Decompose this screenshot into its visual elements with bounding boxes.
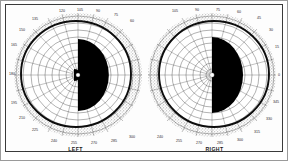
svg-text:270: 270 bbox=[196, 141, 202, 145]
svg-text:90: 90 bbox=[195, 8, 199, 12]
visual-field-plot-left: 120 105 90 75 60 135 150 165 180 195 210… bbox=[6, 5, 145, 152]
svg-text:345: 345 bbox=[273, 100, 279, 104]
perimetry-plate-frame: 120 105 90 75 60 135 150 165 180 195 210… bbox=[0, 0, 288, 161]
svg-text:30: 30 bbox=[269, 28, 273, 32]
svg-text:225: 225 bbox=[32, 128, 38, 132]
svg-text:135: 135 bbox=[32, 17, 38, 21]
eye-label-left: LEFT bbox=[6, 146, 145, 152]
svg-text:60: 60 bbox=[130, 19, 134, 23]
svg-text:300: 300 bbox=[129, 135, 135, 139]
svg-text:150: 150 bbox=[19, 28, 25, 32]
svg-text:60: 60 bbox=[237, 10, 241, 14]
eye-label-right: RIGHT bbox=[145, 146, 283, 152]
svg-text:90: 90 bbox=[96, 9, 100, 13]
svg-text:120: 120 bbox=[59, 9, 65, 13]
svg-text:165: 165 bbox=[11, 43, 17, 47]
svg-text:210: 210 bbox=[19, 116, 25, 120]
svg-text:105: 105 bbox=[77, 8, 83, 12]
svg-text:315: 315 bbox=[254, 130, 260, 134]
svg-text:270: 270 bbox=[91, 141, 97, 145]
svg-text:255: 255 bbox=[71, 141, 77, 145]
fixation-point-left bbox=[76, 73, 80, 77]
svg-text:15: 15 bbox=[275, 45, 279, 49]
visual-field-plot-right: 105 90 75 60 45 30 15 0 345 330 315 300 … bbox=[145, 5, 283, 152]
svg-text:105: 105 bbox=[172, 9, 178, 13]
fixation-point-right bbox=[210, 73, 215, 78]
svg-text:330: 330 bbox=[266, 117, 272, 121]
svg-text:285: 285 bbox=[217, 141, 223, 145]
svg-text:75: 75 bbox=[114, 13, 118, 17]
svg-text:180: 180 bbox=[9, 72, 15, 76]
svg-text:255: 255 bbox=[176, 139, 182, 143]
perimetry-plate: 120 105 90 75 60 135 150 165 180 195 210… bbox=[5, 4, 283, 152]
svg-text:240: 240 bbox=[157, 135, 163, 139]
svg-text:0: 0 bbox=[278, 73, 280, 77]
svg-text:285: 285 bbox=[111, 139, 117, 143]
svg-text:195: 195 bbox=[11, 101, 17, 105]
svg-text:45: 45 bbox=[257, 16, 261, 20]
svg-text:300: 300 bbox=[237, 138, 243, 142]
svg-text:75: 75 bbox=[216, 8, 220, 12]
visual-field-chart-right: 105 90 75 60 45 30 15 0 345 330 315 300 … bbox=[145, 5, 283, 152]
visual-field-chart-left: 120 105 90 75 60 135 150 165 180 195 210… bbox=[6, 5, 145, 152]
svg-text:240: 240 bbox=[51, 139, 57, 143]
